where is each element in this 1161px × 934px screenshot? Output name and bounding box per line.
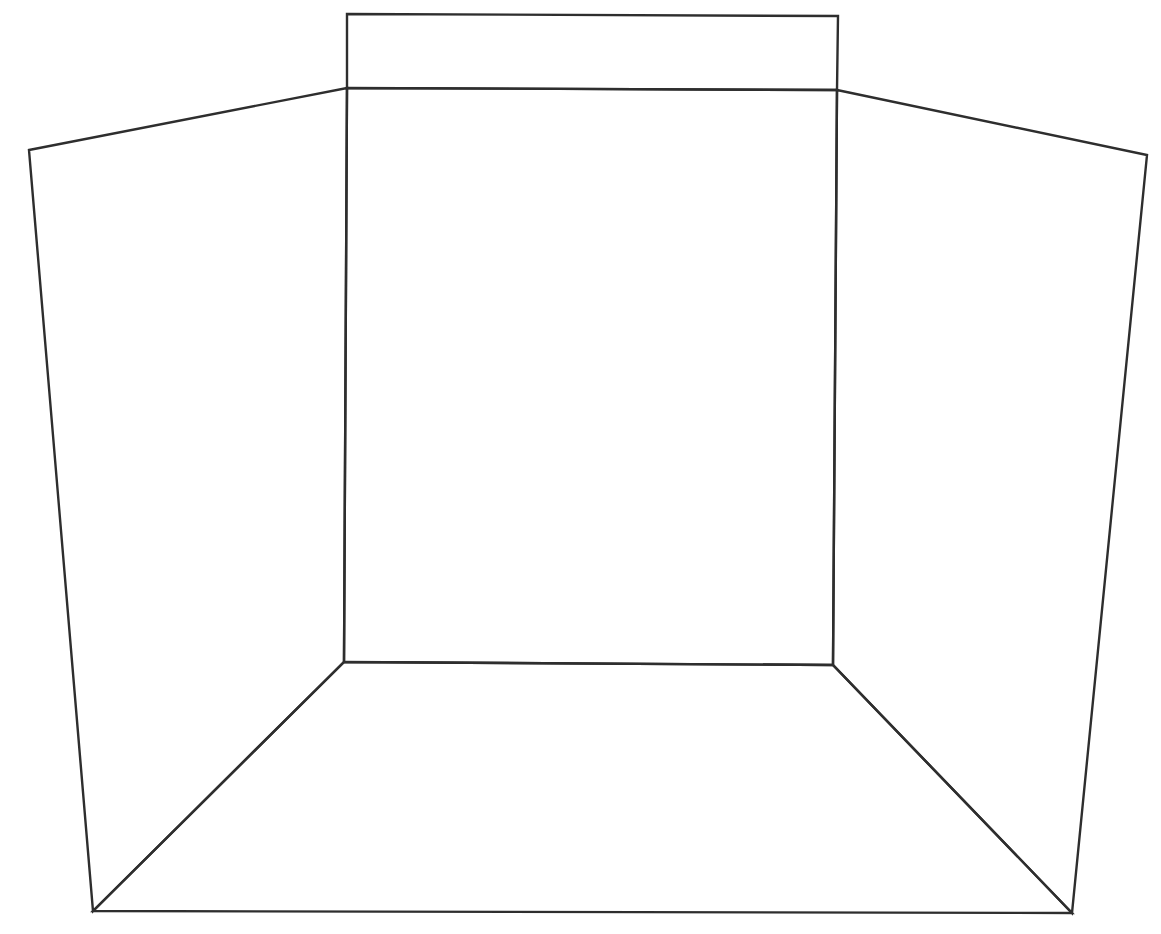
- left-wall: [29, 88, 347, 911]
- floor: [93, 662, 1072, 913]
- right-wall: [833, 90, 1147, 913]
- room-diagram-svg: [0, 0, 1161, 934]
- room-diagram: [0, 0, 1161, 934]
- back-wall: [344, 88, 837, 665]
- top-panel: [347, 14, 838, 90]
